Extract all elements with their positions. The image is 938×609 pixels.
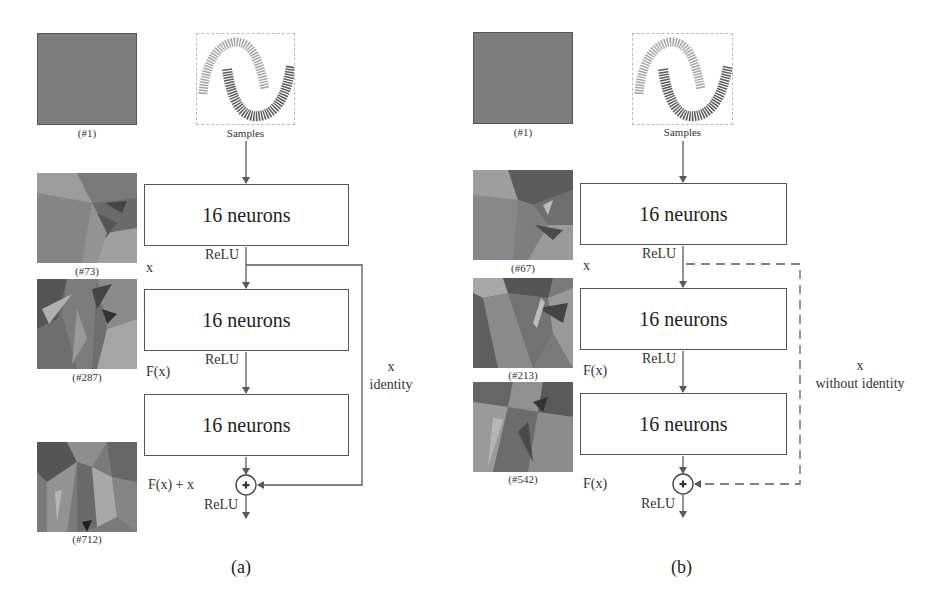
layer-box: 16 neurons (580, 183, 787, 245)
layer-label: 16 neurons (639, 203, 727, 226)
region-thumbnail (37, 442, 137, 532)
region-thumbnail-caption: (#213) (473, 369, 573, 381)
activation-label: ReLU (205, 247, 239, 263)
layer-label: 16 neurons (202, 309, 290, 332)
samples-caption: Samples (196, 127, 295, 139)
region-thumbnail-caption: (#73) (37, 265, 137, 277)
layer-label: 16 neurons (639, 308, 727, 331)
region-thumbnail (37, 173, 137, 263)
initial-region-caption: (#1) (37, 127, 137, 139)
region-thumbnail (473, 170, 573, 260)
signal-label-fx: F(x) (583, 363, 607, 379)
activation-label: ReLU (642, 351, 676, 367)
region-thumbnail (473, 278, 573, 368)
activation-label: ReLU (641, 496, 675, 512)
initial-region-image (37, 33, 137, 125)
samples-plot (632, 33, 733, 125)
layer-box: 16 neurons (580, 393, 787, 455)
initial-region-caption: (#1) (473, 126, 573, 138)
signal-label-x: x (583, 258, 590, 274)
signal-label-output: F(x) + x (148, 477, 194, 493)
activation-label: ReLU (642, 246, 676, 262)
skip-label: x identity (366, 358, 416, 394)
region-thumbnail-caption: (#712) (37, 533, 137, 545)
region-thumbnail-caption: (#287) (37, 371, 137, 383)
samples-plot (196, 33, 295, 125)
layer-box: 16 neurons (144, 289, 349, 351)
skip-label-line1: x (366, 358, 416, 376)
connector-lines (0, 0, 938, 609)
activation-label: ReLU (205, 352, 239, 368)
layer-label: 16 neurons (202, 414, 290, 437)
layer-box: 16 neurons (144, 394, 349, 456)
signal-label-x: x (146, 260, 153, 276)
signal-label-fx: F(x) (146, 364, 170, 380)
activation-label: ReLU (204, 497, 238, 513)
initial-region-image (473, 32, 573, 124)
region-thumbnail (473, 382, 573, 472)
region-thumbnail-caption: (#542) (473, 473, 573, 485)
region-thumbnail-caption: (#67) (473, 262, 573, 274)
region-thumbnail (37, 279, 137, 369)
layer-label: 16 neurons (202, 204, 290, 227)
skip-label-line1: x (805, 357, 915, 375)
panel-label: (a) (231, 557, 251, 578)
layer-label: 16 neurons (639, 413, 727, 436)
skip-label: x without identity (805, 357, 915, 393)
panel-label: (b) (671, 557, 692, 578)
skip-label-line2: without identity (805, 375, 915, 393)
layer-box: 16 neurons (580, 288, 787, 350)
signal-label-output: F(x) (583, 476, 607, 492)
skip-label-line2: identity (366, 376, 416, 394)
layer-box: 16 neurons (144, 184, 349, 246)
samples-caption: Samples (632, 126, 733, 138)
